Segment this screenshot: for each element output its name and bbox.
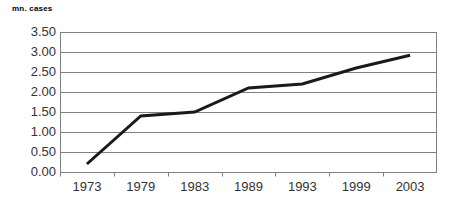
plot-svg bbox=[60, 32, 437, 180]
x-tick-label: 1999 bbox=[329, 180, 383, 198]
x-tick-label: 1973 bbox=[60, 180, 114, 198]
x-tick-label: 2003 bbox=[383, 180, 437, 198]
axis-lines bbox=[61, 33, 437, 173]
y-tick-label: 3.50 bbox=[10, 25, 56, 38]
data-series-line bbox=[87, 55, 410, 164]
x-axis-tick-labels: 1973 1979 1983 1989 1993 1999 2003 bbox=[60, 180, 437, 198]
y-tick-label: 2.50 bbox=[10, 65, 56, 78]
gridlines bbox=[60, 33, 437, 173]
plot-area bbox=[60, 32, 437, 172]
x-tick-label: 1989 bbox=[222, 180, 276, 198]
x-tick-label: 1983 bbox=[168, 180, 222, 198]
y-tick-label: 3.00 bbox=[10, 45, 56, 58]
y-tick-label: 1.50 bbox=[10, 105, 56, 118]
x-tick-label: 1979 bbox=[114, 180, 168, 198]
y-tick-label: 2.00 bbox=[10, 85, 56, 98]
x-tick-label: 1993 bbox=[275, 180, 329, 198]
line-chart-figure: mn. cases 3.50 3.00 2.50 2.00 1.50 1.00 … bbox=[0, 0, 451, 204]
y-tick-label: 1.00 bbox=[10, 125, 56, 138]
y-axis-tick-labels: 3.50 3.00 2.50 2.00 1.50 1.00 0.50 0.00 bbox=[0, 0, 56, 204]
y-tick-label: 0.50 bbox=[10, 145, 56, 158]
x-axis-tick-marks bbox=[61, 173, 438, 177]
y-tick-label: 0.00 bbox=[10, 165, 56, 178]
